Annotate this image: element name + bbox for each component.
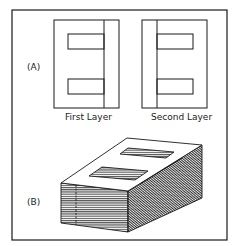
- part-b-label: (B): [27, 197, 40, 207]
- first-layer-caption: First Layer: [65, 112, 112, 122]
- transformer-core-diagram: (A) First Layer Second Layer (B): [0, 0, 236, 246]
- second-layer-caption: Second Layer: [151, 112, 212, 122]
- part-a-label: (A): [27, 62, 40, 72]
- second-layer-lamination: [142, 20, 207, 108]
- first-layer-lamination: [54, 20, 119, 108]
- stacked-core-3d: [61, 138, 202, 232]
